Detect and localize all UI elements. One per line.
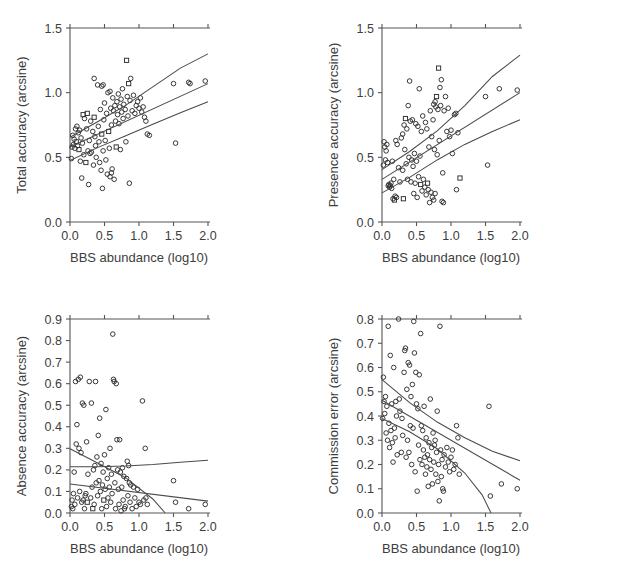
data-point — [104, 407, 109, 412]
data-point — [100, 186, 105, 191]
y-tick-label: 0.5 — [357, 151, 374, 165]
y-tick-label: 0.6 — [357, 361, 374, 375]
data-point — [419, 182, 423, 186]
data-point — [86, 182, 91, 187]
x-axis-title: BBS abundance (log10) — [70, 541, 208, 556]
data-point — [124, 140, 129, 145]
data-point — [405, 387, 410, 392]
data-point — [423, 120, 428, 125]
data-point — [91, 507, 95, 511]
data-point — [437, 499, 442, 504]
data-point — [127, 82, 131, 86]
data-point — [414, 159, 419, 164]
data-point — [456, 436, 461, 441]
data-point — [82, 506, 87, 511]
panel-presence-accuracy: 0.00.51.01.52.00.00.51.01.5BBS abundance… — [312, 0, 624, 291]
figure-container: 0.00.51.01.52.00.00.51.01.5BBS abundance… — [0, 0, 624, 582]
data-point — [186, 506, 191, 511]
plot-svg: 0.00.51.01.52.00.00.51.01.5BBS abundance… — [312, 0, 624, 291]
data-point — [407, 450, 412, 455]
data-point — [98, 107, 103, 112]
data-point — [440, 457, 445, 462]
data-point — [89, 401, 94, 406]
data-point — [99, 506, 104, 511]
data-point — [77, 489, 82, 494]
data-point — [485, 163, 490, 168]
data-point — [121, 116, 126, 121]
data-point — [390, 440, 395, 445]
data-point — [394, 414, 399, 419]
data-point — [413, 181, 418, 186]
y-tick-label: 0.3 — [357, 434, 374, 448]
data-point — [119, 485, 124, 490]
data-point — [412, 151, 417, 156]
data-point — [451, 467, 456, 472]
fit-line — [70, 84, 208, 147]
data-point — [87, 379, 92, 384]
data-point — [411, 319, 416, 324]
data-point — [411, 191, 416, 196]
data-point — [420, 462, 425, 467]
data-point — [84, 160, 88, 164]
data-point — [108, 446, 113, 451]
data-point — [458, 176, 462, 180]
x-tick-label: 1.0 — [130, 229, 147, 243]
data-point — [101, 470, 106, 475]
data-points — [380, 317, 519, 503]
data-point — [140, 399, 145, 404]
data-point — [386, 324, 391, 329]
y-tick-label: 0.2 — [45, 463, 62, 477]
data-point — [417, 86, 422, 91]
data-point — [454, 187, 459, 192]
data-point — [101, 149, 106, 154]
data-point — [116, 92, 121, 97]
data-point — [109, 123, 114, 128]
data-point — [406, 103, 411, 108]
data-point — [429, 467, 434, 472]
data-point — [422, 404, 427, 409]
data-point — [92, 76, 97, 81]
data-point — [401, 197, 405, 201]
y-tick-label: 0.3 — [45, 442, 62, 456]
y-tick-label: 0.0 — [45, 507, 62, 521]
data-point — [439, 474, 444, 479]
data-point — [102, 453, 107, 458]
data-point — [131, 93, 136, 98]
data-point — [79, 136, 84, 141]
data-point — [436, 462, 441, 467]
data-point — [98, 489, 103, 494]
data-point — [92, 115, 96, 119]
data-point — [409, 394, 414, 399]
data-point — [113, 481, 118, 486]
panel-total-accuracy: 0.00.51.01.52.00.00.51.01.5BBS abundance… — [0, 0, 312, 291]
y-ticks: 0.00.10.20.30.40.50.60.70.8 — [357, 313, 382, 521]
data-point — [97, 160, 102, 165]
data-point — [487, 404, 492, 409]
data-point — [436, 479, 441, 484]
y-ticks: 0.00.10.20.30.40.50.60.70.80.9 — [45, 313, 70, 521]
data-point — [488, 494, 493, 499]
data-point — [403, 116, 407, 120]
data-point — [95, 455, 100, 460]
data-point — [405, 127, 410, 132]
plot-svg: 0.00.51.01.52.00.00.10.20.30.40.50.60.70… — [0, 291, 312, 582]
x-tick-label: 0.0 — [61, 520, 78, 534]
data-point — [382, 411, 387, 416]
data-point — [126, 114, 131, 119]
data-point — [173, 141, 178, 146]
data-point — [407, 79, 412, 84]
y-tick-label: 0.0 — [45, 216, 62, 230]
data-point — [126, 493, 131, 498]
y-tick-label: 0.0 — [357, 507, 374, 521]
y-tick-label: 0.8 — [45, 334, 62, 348]
data-point — [141, 105, 146, 110]
x-tick-label: 1.5 — [165, 520, 182, 534]
x-ticks: 0.00.51.01.52.0 — [373, 24, 528, 243]
data-point — [449, 128, 454, 133]
data-point — [97, 140, 102, 145]
data-point — [391, 177, 396, 182]
x-tick-label: 2.0 — [511, 229, 528, 243]
data-point — [385, 404, 390, 409]
plot-svg: 0.00.51.01.52.00.00.10.20.30.40.50.60.70… — [312, 291, 624, 582]
x-tick-label: 0.5 — [408, 520, 425, 534]
